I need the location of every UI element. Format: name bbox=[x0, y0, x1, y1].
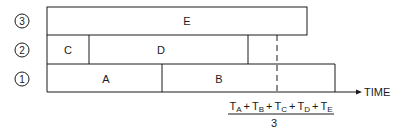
time-axis-arrow-icon bbox=[356, 90, 362, 95]
row-1-label: 1 bbox=[19, 74, 25, 85]
task-box-e bbox=[47, 7, 307, 35]
task-label-e: E bbox=[183, 15, 190, 27]
formula-denominator: 3 bbox=[271, 117, 277, 129]
time-axis-label: TIME bbox=[364, 86, 390, 98]
task-label-c: C bbox=[64, 44, 72, 56]
task-label-b: B bbox=[215, 73, 222, 85]
row-2-label: 2 bbox=[19, 45, 25, 56]
row-3-label: 3 bbox=[19, 16, 25, 27]
formula-numerator: TA+TB+TC+TD+TE bbox=[229, 100, 332, 114]
task-label-d: D bbox=[157, 44, 165, 56]
schedule-diagram: 3 2 1 E C D A B TIME TA+TB+TC+TD+TE 3 bbox=[0, 0, 410, 134]
task-label-a: A bbox=[102, 73, 110, 85]
